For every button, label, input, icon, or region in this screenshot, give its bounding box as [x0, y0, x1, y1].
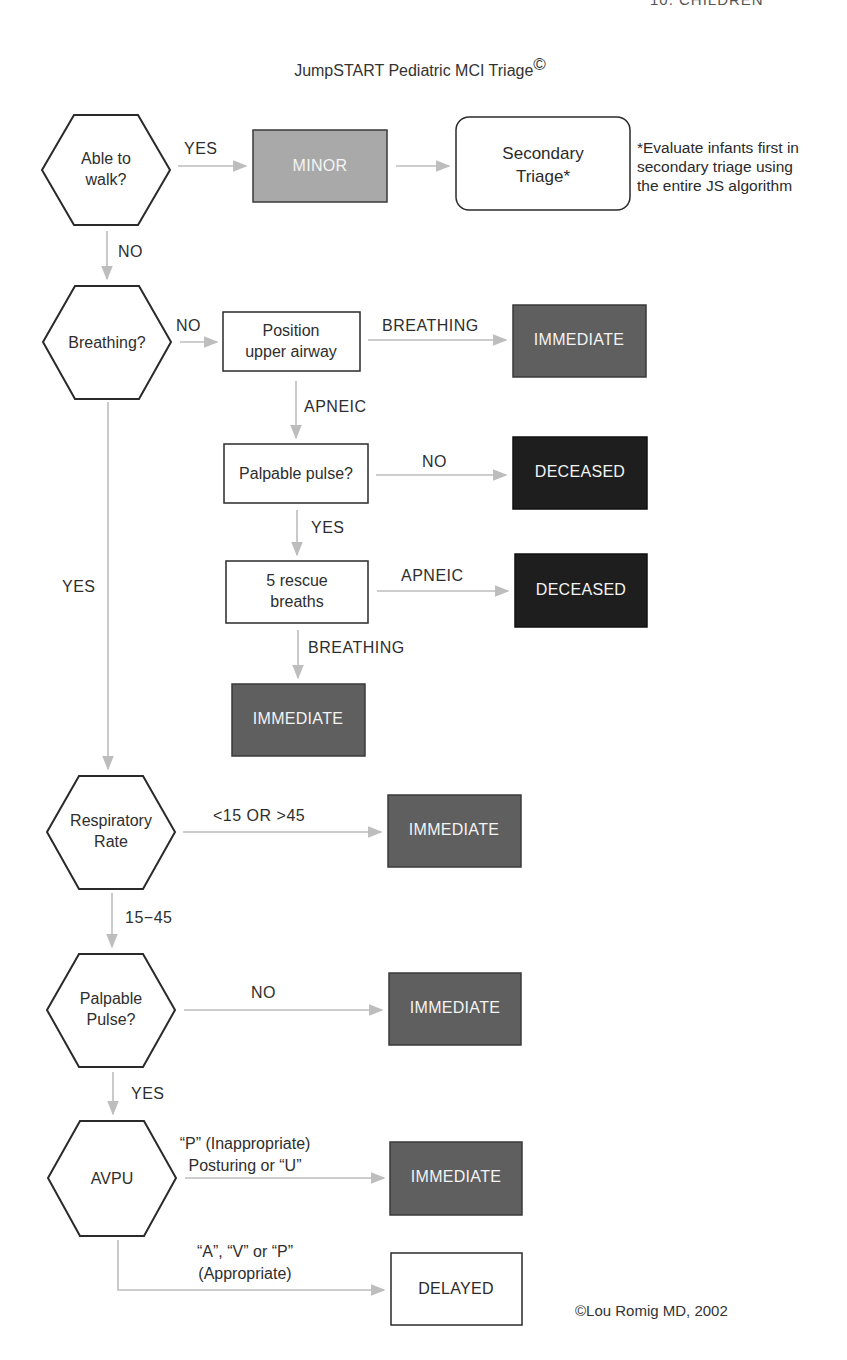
rescue-step-label: 5 rescue breaths	[266, 570, 327, 612]
decision-walk-line-1: Able to	[81, 148, 131, 169]
flowchart-canvas	[0, 0, 847, 1360]
decision-avpu-label: AVPU	[91, 1168, 133, 1189]
edge-pulse-yes: YES	[311, 519, 345, 537]
edge-avpu-delayed-line-2: (Appropriate)	[197, 1263, 293, 1285]
edge-rr-abnormal: <15 OR >45	[213, 807, 305, 825]
edge-pp-yes: YES	[131, 1085, 165, 1103]
decision-pulse-line-2: Pulse?	[80, 1009, 142, 1030]
edge-pp-no: NO	[251, 984, 276, 1002]
immediate-label-2: IMMEDIATE	[253, 710, 343, 728]
edge-breathing-yes: YES	[62, 578, 96, 596]
edge-breathing-no: NO	[176, 317, 201, 335]
airway-line-1: Position	[245, 320, 337, 341]
immediate-label-5: IMMEDIATE	[411, 1168, 501, 1186]
decision-pulse-line-1: Palpable	[80, 988, 142, 1009]
edge-pulse-no: NO	[422, 453, 447, 471]
decision-resp-rate-line-2: Rate	[70, 831, 152, 852]
edge-avpu-immediate: “P” (Inappropriate) Posturing or “U”	[180, 1133, 311, 1177]
deceased-label-2: DECEASED	[536, 581, 626, 599]
decision-breathing-label: Breathing?	[68, 332, 145, 353]
minor-label: MINOR	[293, 157, 348, 175]
edge-avpu-immediate-line-1: “P” (Inappropriate)	[180, 1133, 311, 1155]
edge-rr-normal: 15−45	[125, 909, 172, 927]
rescue-line-2: breaths	[266, 591, 327, 612]
edge-rescue-apneic: APNEIC	[401, 567, 464, 585]
secondary-line-1: Secondary	[502, 142, 583, 165]
secondary-triage-label: Secondary Triage*	[502, 142, 583, 188]
palpable-pulse-step-label: Palpable pulse?	[239, 463, 353, 484]
infant-footnote-line-1: *Evaluate infants first in	[637, 138, 799, 157]
chart-title: JumpSTART Pediatric MCI Triage©	[294, 55, 546, 80]
airway-step-label: Position upper airway	[245, 320, 337, 362]
edge-rescue-breathing: BREATHING	[308, 639, 405, 657]
edge-walk-yes: YES	[184, 140, 218, 158]
edge-airway-breathing: BREATHING	[382, 317, 479, 335]
chart-title-text: JumpSTART Pediatric MCI Triage	[294, 62, 533, 79]
copyright-credit: ©Lou Romig MD, 2002	[575, 1302, 728, 1319]
decision-walk-line-2: walk?	[81, 169, 131, 190]
infant-footnote-line-3: the entire JS algorithm	[637, 176, 799, 195]
rescue-line-1: 5 rescue	[266, 570, 327, 591]
edge-avpu-delayed: “A”, “V” or “P” (Appropriate)	[197, 1241, 293, 1285]
deceased-label-1: DECEASED	[535, 463, 625, 481]
delayed-label: DELAYED	[418, 1280, 494, 1298]
immediate-label-3: IMMEDIATE	[409, 821, 499, 839]
decision-pulse-label: Palpable Pulse?	[80, 988, 142, 1030]
secondary-line-2: Triage*	[502, 165, 583, 188]
edge-avpu-delayed-line-1: “A”, “V” or “P”	[197, 1241, 293, 1263]
decision-walk-label: Able to walk?	[81, 148, 131, 190]
infant-footnote-line-2: secondary triage using	[637, 157, 799, 176]
immediate-label-4: IMMEDIATE	[410, 999, 500, 1017]
infant-footnote: *Evaluate infants first in secondary tri…	[637, 138, 799, 195]
page-header-cutoff: 10. CHILDREN	[650, 0, 764, 8]
decision-resp-rate-line-1: Respiratory	[70, 810, 152, 831]
decision-resp-rate-label: Respiratory Rate	[70, 810, 152, 852]
immediate-label-1: IMMEDIATE	[534, 331, 624, 349]
edge-avpu-immediate-line-2: Posturing or “U”	[180, 1155, 311, 1177]
edge-airway-apneic: APNEIC	[304, 398, 367, 416]
copyright-mark: ©	[533, 55, 546, 74]
airway-line-2: upper airway	[245, 341, 337, 362]
edge-walk-no: NO	[118, 243, 143, 261]
